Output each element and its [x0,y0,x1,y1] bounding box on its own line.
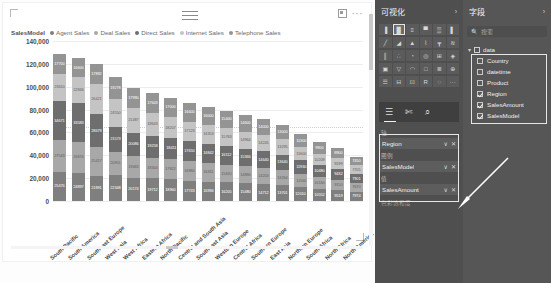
bar-segment[interactable]: 14964 [239,132,252,149]
stacked-bar[interactable]: 1600016353168421631116994 [202,107,215,201]
bar-segment[interactable]: 13264 [276,170,289,185]
bar-segment[interactable]: 18207 [164,117,177,138]
bar-segment[interactable]: 24550 [109,99,122,127]
bar-segment[interactable]: 17892 [90,64,103,84]
line-chart-icon[interactable]: ╱ [379,37,392,48]
field-checkbox[interactable] [477,58,483,64]
bar-segment[interactable]: 9150 [331,180,344,190]
bar-segment[interactable]: 17650 [183,141,196,161]
bar-segment[interactable]: 22846 [72,77,85,103]
field-checkbox[interactable] [477,113,483,119]
scatter-chart-icon[interactable]: ∴ [393,50,406,61]
stacked-bar[interactable]: 74507705790176707974 [350,157,363,201]
bar-segment[interactable]: 8900 [331,148,344,158]
field-list-item[interactable]: Region [467,88,547,99]
analytics-tab[interactable]: ⌕ [425,107,430,118]
field-list-item[interactable]: Country [467,55,547,66]
bar-segment[interactable]: 20951 [109,152,122,176]
fields-tab[interactable]: ☰ [385,107,393,117]
fields-search-box[interactable]: 🔍 搜索 [467,26,547,37]
chart-horizontal-scrollbar[interactable] [11,246,363,249]
bar-segment[interactable]: 17822 [164,159,177,179]
field-list-item[interactable]: Product [467,77,547,88]
bar-segment[interactable]: 13701 [276,185,289,201]
field-list-item[interactable]: SalesModel [467,110,547,121]
bar-segment[interactable]: 7974 [350,192,363,201]
bar-segment[interactable]: 13295 [276,139,289,154]
stacked-bar[interactable]: 1660017123176501698417743 [183,103,196,201]
report-canvas[interactable]: ··· SalesModel Agent Sales Deal Sales Di… [0,0,375,283]
hamburger-icon[interactable] [182,11,198,20]
bar-segment[interactable]: 9199 [331,158,344,169]
line-stacked-column-icon[interactable]: ⌇ [420,37,433,48]
bar-segment[interactable]: 11930 [294,160,307,174]
bar-segment[interactable]: 25476 [53,172,66,201]
bar-segment[interactable]: 11600 [294,147,307,160]
field-list-item[interactable]: datetime [467,66,547,77]
bar-segment[interactable]: 15366 [239,149,252,167]
bar-segment[interactable]: 24897 [72,173,85,201]
values-well-pill[interactable]: SalesAmount ∨ ✕ [379,184,459,195]
bar-segment[interactable]: 15400 [220,111,233,129]
legend-item[interactable]: Internet Sales [180,29,224,36]
canvas-vertical-scrollbar[interactable] [369,14,373,246]
remove-field-icon[interactable]: ✕ [451,140,456,147]
bar-segment[interactable]: 16353 [202,125,215,144]
bar-segment[interactable]: 17643 [146,93,159,113]
stacked-bar[interactable]: 1764319643192581834419712 [146,93,159,201]
search-input[interactable]: 搜索 [481,27,493,36]
bar-segment[interactable]: 18344 [146,158,159,179]
bar-segment[interactable]: 15763 [220,128,233,146]
chart-legend[interactable]: SalesModel Agent Sales Deal Sales Direct… [11,29,286,36]
area-chart-icon[interactable]: ◢ [393,37,406,48]
donut-chart-icon[interactable]: ◎ [420,50,433,61]
bar-segment[interactable]: 7705 [350,165,363,174]
bar-segment[interactable]: 21487 [127,108,140,133]
bar-segment[interactable]: 34671 [53,101,66,141]
bar-segment[interactable]: 10552 [313,189,326,201]
kpi-icon[interactable]: ⊕ [447,63,460,74]
stacked-bar[interactable]: 1130011600119301156012010 [294,134,307,201]
bar-segment[interactable]: 17743 [183,181,196,201]
more-options-icon[interactable]: ··· [352,11,364,17]
matrix-icon[interactable]: ⊡ [406,76,419,87]
bar-segment[interactable]: 25417 [90,147,103,176]
table-icon[interactable]: ⊟ [393,76,406,87]
bar-segment[interactable]: 14245 [257,135,270,151]
chevron-down-icon[interactable]: ∨ [444,163,448,170]
100-stacked-column-icon[interactable]: ▌ [447,24,460,35]
bar-segment[interactable]: 11560 [294,174,307,187]
multi-row-card-icon[interactable]: ≣ [433,63,446,74]
bar-segment[interactable]: 14600 [239,115,252,132]
ribbon-chart-icon[interactable]: ≋ [447,37,460,48]
bar-segment[interactable]: 19278 [109,77,122,99]
bar-segment[interactable]: 16984 [183,161,196,180]
bar-segment[interactable]: 10160 [313,177,326,189]
visual-type-gallery[interactable]: ▐█≡▀▒▌╱◢▲⌇┳≋║∴◔◎⊞◈▣▽◠□≣⊕☰⊟⊡R◌··· [379,24,459,87]
field-list[interactable]: CountrydatetimeProductRegionSalesAmountS… [467,55,547,121]
pane-tab-row[interactable]: ☰ ✄ ⌕ [379,102,459,122]
line-clustered-column-icon[interactable]: ┳ [433,37,446,48]
bar-segment[interactable]: 17700 [53,54,66,74]
bar-segment[interactable]: 22348 [109,175,122,201]
bar-segment[interactable]: 21891 [90,176,103,201]
clustered-bar-chart-icon[interactable]: ≡ [406,24,419,35]
bar-segment[interactable]: 9519 [331,190,344,201]
remove-field-icon[interactable]: ✕ [451,186,456,193]
bar-segment[interactable]: 15480 [239,183,252,201]
collapse-chevron-icon[interactable]: › [543,8,545,15]
chevron-down-icon[interactable]: ▾ [468,46,471,53]
card-icon[interactable]: □ [420,63,433,74]
chevron-down-icon[interactable]: ∨ [444,186,448,193]
stacked-bar-chart-icon[interactable]: ▐ [379,24,392,35]
collapse-chevron-icon[interactable]: › [455,8,457,15]
bar-segment[interactable]: 26874 [72,142,85,173]
legend-pill-actions[interactable]: ∨ ✕ [444,163,456,170]
field-checkbox[interactable] [477,91,483,97]
stacked-bar[interactable]: 1300013295136401326413701 [276,125,289,201]
field-checkbox[interactable] [477,80,483,86]
bar-segment[interactable]: 17123 [183,122,196,142]
bar-segment[interactable]: 16600 [72,58,85,77]
bar-segment[interactable]: 16842 [202,144,215,163]
bar-segment[interactable]: 7670 [350,183,363,192]
